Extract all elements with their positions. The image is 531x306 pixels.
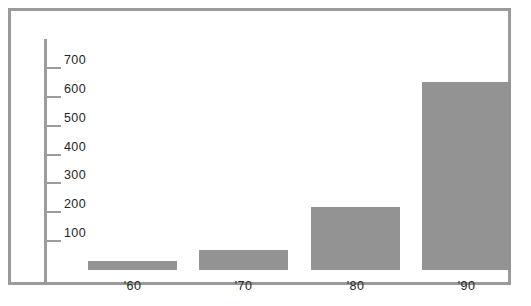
bar-chart-figure: 100200300400500600700 '60'70'80'90 [0, 0, 531, 306]
y-axis-tick [44, 125, 61, 127]
y-axis-line [44, 39, 47, 282]
chart-frame: 100200300400500600700 '60'70'80'90 [8, 8, 511, 285]
x-axis-tick-label: '60 [88, 280, 177, 293]
plot-area: 100200300400500600700 '60'70'80'90 [22, 22, 519, 293]
y-axis-tick-label: 100 [64, 227, 86, 240]
bar-80 [311, 207, 400, 270]
y-axis-tick-label: 200 [64, 198, 86, 211]
x-axis-tick-label: '70 [199, 280, 288, 293]
y-axis-tick-label: 300 [64, 169, 86, 182]
x-axis-tick-label: '80 [311, 280, 400, 293]
x-axis-tick-label: '90 [422, 280, 511, 293]
y-axis-tick [44, 96, 61, 98]
y-axis-tick [44, 240, 61, 242]
y-axis-tick-label: 500 [64, 112, 86, 125]
bar-70 [199, 250, 288, 270]
y-axis-tick-label: 600 [64, 83, 86, 96]
y-axis-tick [44, 211, 61, 213]
bar-90 [422, 82, 511, 270]
y-axis-tick-label: 700 [64, 54, 86, 67]
y-axis-tick [44, 67, 61, 69]
y-axis-tick [44, 182, 61, 184]
y-axis-tick [44, 154, 61, 156]
bar-60 [88, 261, 177, 270]
y-axis-tick-label: 400 [64, 141, 86, 154]
